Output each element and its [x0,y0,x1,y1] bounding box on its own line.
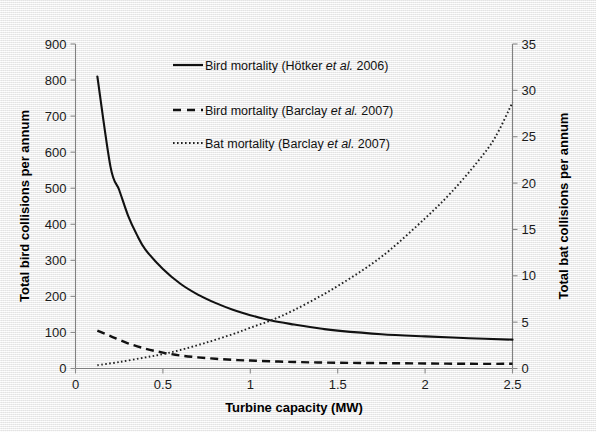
y-axis-tick-label: 300 [45,253,67,268]
x-axis-title: Turbine capacity (MW) [225,400,363,415]
axis-right: 05101520253035 [513,37,536,377]
y-axis-right-title: Total bat collisions per annum [556,113,571,300]
y2-axis-tick-label: 30 [522,83,536,98]
legend-label-bird-barclay: Bird mortality (Barclay et al. 2007) [205,104,393,118]
x-axis-tick-label: 2.5 [503,377,521,392]
axis-bottom: 00.511.522.5 [72,369,522,392]
x-axis-tick-label: 1 [247,377,254,392]
y2-axis-tick-label: 5 [522,315,529,330]
chart-legend: Bird mortality (Hötker et al. 2006) Bird… [173,59,393,151]
y2-axis-tick-label: 0 [522,361,529,376]
y-axis-tick-label: 400 [45,217,67,232]
y2-axis-tick-label: 35 [522,37,536,52]
x-axis-tick-label: 0 [72,377,79,392]
legend-label-bird-hotker: Bird mortality (Hötker et al. 2006) [205,59,388,73]
x-axis-tick-label: 2 [421,377,428,392]
x-axis-tick-label: 0.5 [154,377,172,392]
legend-label-bat-barclay: Bat mortality (Barclay et al. 2007) [205,137,390,151]
y2-axis-tick-label: 15 [522,222,536,237]
y-axis-tick-label: 600 [45,145,67,160]
legend-item-bat-barclay: Bat mortality (Barclay et al. 2007) [173,137,390,151]
y2-axis-tick-label: 25 [522,129,536,144]
y-axis-tick-label: 800 [45,73,67,88]
chart-svg: 0100200300400500600700800900 05101520253… [0,0,596,432]
x-axis-tick-label: 1.5 [329,377,347,392]
y-axis-tick-label: 500 [45,181,67,196]
y-axis-left-title: Total bird collisions per annum [17,110,32,302]
legend-item-bird-hotker: Bird mortality (Hötker et al. 2006) [173,59,388,73]
y2-axis-tick-label: 10 [522,268,536,283]
axis-left: 0100200300400500600700800900 [45,37,76,377]
legend-item-bird-barclay: Bird mortality (Barclay et al. 2007) [173,104,393,118]
series-line-bird-barclay [97,331,512,364]
y-axis-tick-label: 900 [45,37,67,52]
y-axis-tick-label: 200 [45,289,67,304]
series-lines [97,76,512,365]
y-axis-tick-label: 0 [59,361,66,376]
chart-figure: 0100200300400500600700800900 05101520253… [0,0,596,432]
y2-axis-tick-label: 20 [522,176,536,191]
y-axis-tick-label: 700 [45,109,67,124]
y-axis-tick-label: 100 [45,325,67,340]
